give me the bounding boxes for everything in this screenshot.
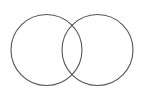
left-circle: [11, 15, 82, 86]
right-circle: [62, 15, 133, 86]
venn-diagram: [0, 0, 143, 99]
